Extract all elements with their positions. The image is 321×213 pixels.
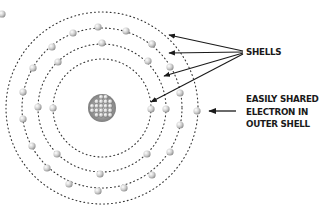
electron-partial — [0, 10, 6, 17]
nucleon — [103, 95, 108, 100]
electron — [49, 104, 56, 111]
electron — [94, 23, 101, 30]
electron — [148, 171, 155, 178]
nucleon — [94, 99, 99, 104]
electron — [148, 40, 155, 47]
electron — [176, 89, 183, 96]
shell-arrow-1 — [169, 35, 243, 51]
electron — [147, 105, 154, 112]
electron — [28, 142, 35, 149]
electron — [96, 170, 103, 177]
electron — [54, 58, 61, 65]
nucleon — [108, 108, 113, 113]
shared-electron-label-line-3: OUTER SHELL — [246, 118, 319, 131]
shells-label: SHELLS — [246, 46, 281, 59]
electron — [34, 103, 41, 110]
nucleon — [108, 99, 113, 104]
shared-electron-label-line-2: ELECTRON IN — [246, 106, 319, 119]
nucleon — [108, 104, 113, 109]
electron — [69, 29, 76, 36]
nucleus — [88, 94, 116, 122]
electron — [29, 64, 36, 71]
electron — [19, 115, 26, 122]
electron — [166, 148, 173, 155]
electron — [122, 27, 129, 34]
nucleon — [94, 113, 99, 118]
nucleon — [99, 108, 104, 113]
pointer-arrows — [151, 35, 243, 111]
electron — [98, 39, 105, 46]
electron — [176, 121, 183, 128]
nucleon — [103, 108, 108, 113]
nucleon — [103, 99, 108, 104]
electron — [65, 180, 72, 187]
electron — [48, 43, 55, 50]
nucleon — [94, 108, 99, 113]
electron — [94, 187, 101, 194]
electron — [193, 107, 200, 114]
nucleon — [103, 113, 108, 118]
shell-arrow-3 — [164, 53, 243, 76]
electron — [53, 150, 60, 157]
electron — [144, 57, 151, 64]
electron — [166, 63, 173, 70]
nucleon — [99, 104, 104, 109]
nucleon — [94, 104, 99, 109]
electron — [120, 184, 127, 191]
electron — [143, 150, 150, 157]
nucleon — [90, 108, 95, 113]
nucleon — [103, 104, 108, 109]
shared-electron-label: EASILY SHARED ELECTRON IN OUTER SHELL — [246, 93, 319, 131]
electron — [19, 88, 26, 95]
electron — [43, 164, 50, 171]
shared-electron-label-line-1: EASILY SHARED — [246, 93, 319, 106]
nucleon — [108, 113, 113, 118]
nucleon — [90, 104, 95, 109]
electron — [162, 105, 169, 112]
nucleon — [99, 99, 104, 104]
nucleon — [99, 95, 104, 100]
nucleon — [99, 113, 104, 118]
shell-arrow-2 — [169, 52, 243, 53]
